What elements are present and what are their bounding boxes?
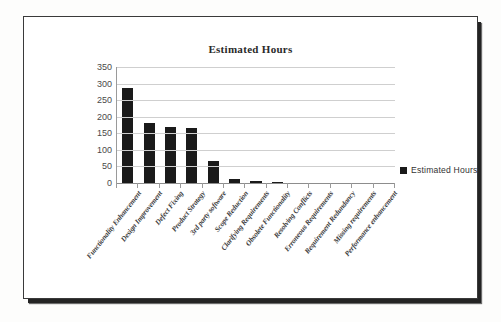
y-tick-label: 50: [102, 161, 112, 171]
bar[interactable]: [165, 127, 176, 183]
y-axis: 350300250200150100500: [86, 67, 112, 183]
y-tick-label: 300: [97, 79, 112, 89]
x-tick: [394, 183, 395, 188]
plot-area: [116, 67, 395, 183]
x-tick: [202, 183, 203, 188]
bar[interactable]: [208, 161, 219, 183]
gridline: [117, 117, 395, 118]
x-tick: [373, 183, 374, 188]
x-axis-ticks: [116, 183, 394, 188]
legend-label: Estimated Hours: [411, 165, 478, 175]
x-tick: [266, 183, 267, 188]
x-tick: [308, 183, 309, 188]
gridline: [117, 133, 395, 134]
y-tick-label: 200: [97, 112, 112, 122]
x-tick: [351, 183, 352, 188]
x-tick: [159, 183, 160, 188]
x-tick: [180, 183, 181, 188]
plot-wrapper: 350300250200150100500 Functionality Enha…: [86, 67, 436, 243]
bar[interactable]: [122, 88, 133, 183]
x-tick: [116, 183, 117, 188]
gridline: [117, 100, 395, 101]
gridline: [117, 150, 395, 151]
y-tick-label: 350: [97, 62, 112, 72]
y-tick-label: 150: [97, 128, 112, 138]
chart-container: Estimated Hours 350300250200150100500 Fu…: [23, 16, 478, 299]
y-tick-label: 250: [97, 95, 112, 105]
gridline: [117, 67, 395, 68]
x-axis-labels: Functionality EnhancementDesign Improvem…: [116, 189, 394, 243]
y-tick-label: 100: [97, 145, 112, 155]
legend-swatch-icon: [400, 167, 407, 174]
scanned-page: Estimated Hours 350300250200150100500 Fu…: [0, 0, 501, 322]
x-tick: [330, 183, 331, 188]
x-tick: [137, 183, 138, 188]
gridline: [117, 84, 395, 85]
bar[interactable]: [144, 123, 155, 183]
chart-title: Estimated Hours: [24, 43, 477, 55]
bar[interactable]: [186, 128, 197, 183]
x-tick: [244, 183, 245, 188]
chart-legend: Estimated Hours: [400, 165, 478, 175]
x-tick: [287, 183, 288, 188]
x-tick: [223, 183, 224, 188]
gridline: [117, 166, 395, 167]
y-tick-label: 0: [107, 178, 112, 188]
